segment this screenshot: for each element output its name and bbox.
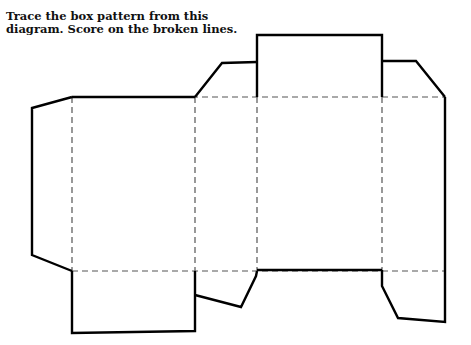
- bottom-flap-left: [72, 271, 195, 333]
- box-pattern-diagram: [0, 0, 471, 345]
- left-side-flap: [32, 97, 72, 271]
- bottom-flap-small-left: [195, 271, 257, 307]
- bottom-flap-small-right: [382, 270, 445, 322]
- score-lines: [72, 97, 445, 271]
- top-flap-right: [382, 61, 445, 97]
- top-flap-left: [195, 62, 257, 97]
- cut-lines: [32, 35, 445, 333]
- top-lid: [257, 35, 382, 97]
